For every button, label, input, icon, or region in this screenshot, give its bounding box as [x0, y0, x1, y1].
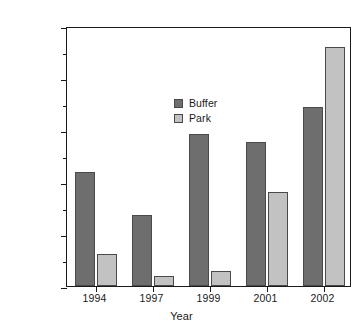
- y-tick-major: [61, 236, 67, 237]
- x-tick-label: 2002: [293, 292, 353, 304]
- x-tick: [324, 286, 325, 292]
- bar-buffer-2002: [303, 107, 323, 286]
- legend: Buffer Park: [174, 97, 217, 127]
- y-tick-minor: [63, 262, 67, 263]
- y-tick-minor: [63, 158, 67, 159]
- x-tick: [153, 286, 154, 292]
- plot-area: Buffer Park: [66, 27, 351, 287]
- bar-park-2001: [268, 192, 288, 286]
- legend-label: Buffer: [189, 97, 217, 110]
- y-tick-major: [61, 132, 67, 133]
- x-tick-label: 1999: [179, 292, 239, 304]
- bar-park-1994: [97, 254, 117, 287]
- y-tick-minor: [63, 54, 67, 55]
- y-tick-major: [61, 288, 67, 289]
- legend-item-park: Park: [174, 112, 217, 125]
- legend-item-buffer: Buffer: [174, 97, 217, 110]
- y-tick-minor: [63, 210, 67, 211]
- y-tick-major: [61, 184, 67, 185]
- legend-swatch-icon: [174, 99, 183, 108]
- bar-buffer-1999: [189, 134, 209, 286]
- bar-park-2002: [325, 47, 345, 286]
- y-tick-minor: [63, 106, 67, 107]
- x-tick: [210, 286, 211, 292]
- bar-buffer-1994: [75, 172, 95, 286]
- y-tick-major: [61, 28, 67, 29]
- bar-buffer-2001: [246, 142, 266, 286]
- figure: Rate of forest loss (ha yr−1) 0 2000 400…: [0, 0, 363, 333]
- x-tick-label: 2001: [236, 292, 296, 304]
- x-tick-label: 1994: [65, 292, 125, 304]
- x-tick-label: 1997: [122, 292, 182, 304]
- bar-buffer-1997: [132, 215, 152, 287]
- legend-swatch-icon: [174, 114, 183, 123]
- bar-park-1997: [154, 276, 174, 286]
- x-tick: [267, 286, 268, 292]
- x-axis-title: Year: [0, 310, 363, 322]
- y-tick-major: [61, 80, 67, 81]
- legend-label: Park: [189, 112, 211, 125]
- x-tick: [96, 286, 97, 292]
- bar-park-1999: [211, 271, 231, 286]
